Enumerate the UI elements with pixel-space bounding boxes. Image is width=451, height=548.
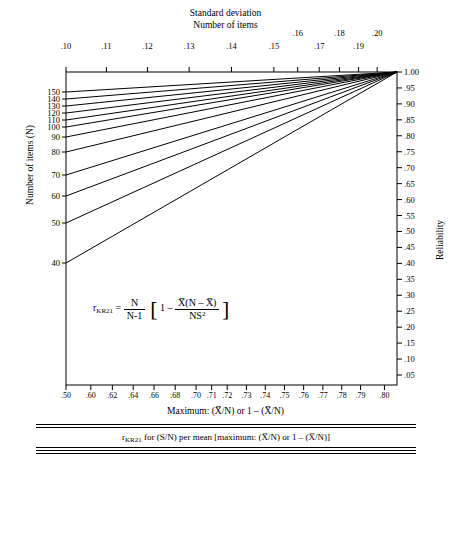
bottom-tick-78: .78: [337, 391, 347, 400]
right-tick-50: .50: [404, 226, 415, 236]
top-tick-17: .17: [314, 41, 325, 51]
fan-line-N=60: [66, 72, 397, 196]
top-tick-20: .20: [372, 28, 383, 38]
table-title-rest: for (S/N) per mean [maximum: (X̅/N) or 1…: [144, 432, 330, 442]
bottom-tick-79: .79: [356, 391, 366, 400]
formula-bracket-open: [: [150, 296, 157, 321]
bottom-tick-74: .74: [260, 391, 270, 400]
right-tick-60: .60: [404, 195, 415, 205]
left-tick-80: 80: [30, 147, 60, 157]
fan-line-N=100: [66, 72, 397, 127]
right-tick-15: .15: [404, 338, 415, 348]
left-tick-70: 70: [30, 170, 60, 180]
bottom-tick-70: .70: [191, 391, 201, 400]
fan-line-N=110: [66, 72, 397, 120]
fan-line-N=120: [66, 72, 397, 113]
top-axis-ticks: [66, 67, 377, 72]
nomograph-fan-lines: [66, 72, 397, 263]
bottom-tick-62: .62: [107, 391, 117, 400]
bottom-tick-68: .68: [170, 391, 180, 400]
kr21-formula: rKR21 = N N-1 [ 1 – X̅(N – X̅) NS2 ]: [93, 296, 229, 322]
bottom-tick-66: .66: [149, 391, 159, 400]
bottom-tick-77: .77: [318, 391, 328, 400]
top-tick-12: .12: [142, 41, 153, 51]
formula-exponent-2: 2: [202, 310, 206, 318]
top-tick-19: .19: [353, 41, 364, 51]
bottom-tick-60: .60: [86, 391, 96, 400]
right-tick-75: .75: [404, 147, 415, 157]
formula-fraction-variance: X̅(N – X̅) NS2: [175, 297, 219, 321]
formula-numerator-n: N: [124, 297, 146, 310]
formula-numerator-xbar: X̅(N – X̅): [175, 297, 219, 310]
right-tick-100: 1.00: [404, 67, 419, 77]
right-tick-95: .95: [404, 83, 415, 93]
right-tick-20: .20: [404, 322, 415, 332]
left-axis-ticks: [62, 92, 66, 263]
bottom-tick-64: .64: [128, 391, 138, 400]
nomograph-plot: [0, 0, 451, 548]
left-tick-50: 50: [30, 218, 60, 228]
formula-minus: –: [168, 302, 173, 313]
top-tick-16: .16: [292, 28, 303, 38]
formula-equals: =: [116, 302, 122, 313]
right-tick-30: .30: [404, 290, 415, 300]
table-title: rKR21 for (S/N) per mean [maximum: (X̅/N…: [36, 428, 416, 447]
right-axis-ticks: [397, 72, 402, 375]
bottom-tick-50: .50: [61, 391, 71, 400]
right-tick-85: .85: [404, 115, 415, 125]
formula-one: 1: [160, 302, 165, 313]
kr21-reference-table: rKR21 for (S/N) per mean [maximum: (X̅/N…: [36, 424, 416, 454]
fan-line-N=70: [66, 72, 397, 175]
right-tick-05: .05: [404, 370, 415, 380]
formula-fraction-n-over-n-minus-1: N N-1: [124, 297, 146, 321]
right-tick-40: .40: [404, 258, 415, 268]
bottom-tick-72: .72: [222, 391, 232, 400]
right-tick-55: .55: [404, 211, 415, 221]
formula-denominator-n-minus-1: N-1: [124, 310, 146, 322]
table-title-subscript: KR21: [125, 436, 142, 444]
formula-bracket-close: ]: [222, 296, 229, 321]
left-tick-40: 40: [30, 258, 60, 268]
bottom-tick-80: .80: [379, 391, 389, 400]
top-tick-10: .10: [61, 41, 72, 51]
bottom-tick-75: .75: [279, 391, 289, 400]
formula-r-subscript: KR21: [96, 307, 113, 315]
right-tick-35: .35: [404, 274, 415, 284]
top-tick-15: .15: [269, 41, 280, 51]
table-mid-rule: [36, 447, 416, 448]
left-tick-60: 60: [30, 191, 60, 201]
right-tick-70: .70: [404, 163, 415, 173]
right-tick-90: .90: [404, 99, 415, 109]
right-tick-65: .65: [404, 179, 415, 189]
top-tick-11: .11: [101, 41, 111, 51]
fan-line-N=80: [66, 72, 397, 152]
right-tick-80: .80: [404, 131, 415, 141]
left-tick-90: 90: [30, 132, 60, 142]
bottom-axis-ticks: [66, 385, 384, 390]
right-tick-25: .25: [404, 306, 415, 316]
bottom-tick-76: .76: [299, 391, 309, 400]
top-tick-18: .18: [334, 28, 345, 38]
bottom-tick-73: .73: [241, 391, 251, 400]
left-tick-100: 100: [30, 122, 60, 132]
formula-denominator-ns2: NS2: [175, 310, 219, 322]
right-tick-10: .10: [404, 354, 415, 364]
right-tick-45: .45: [404, 242, 415, 252]
table-bottom-rule: [36, 450, 416, 454]
top-tick-14: .14: [226, 41, 237, 51]
bottom-tick-71: .71: [207, 391, 217, 400]
top-tick-13: .13: [184, 41, 195, 51]
